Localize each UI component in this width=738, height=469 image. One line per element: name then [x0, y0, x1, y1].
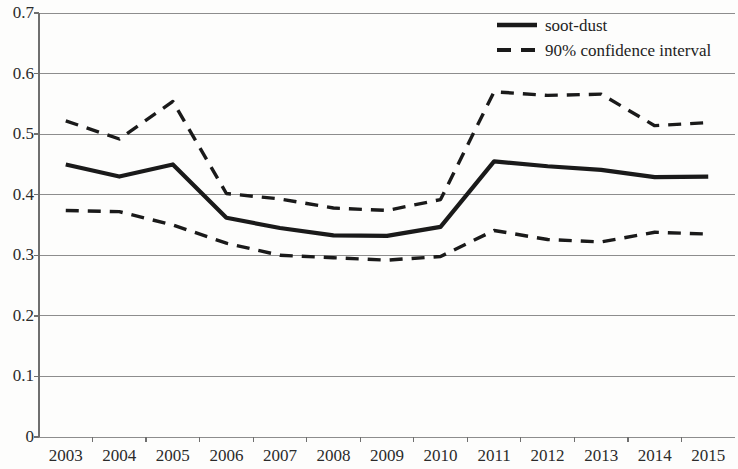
x-tick-label: 2003: [38, 447, 94, 464]
x-tick-marks-group: [93, 437, 682, 442]
axes-group: [34, 13, 39, 437]
series-line-1: [66, 92, 708, 211]
x-tick-label: 2004: [91, 447, 147, 464]
x-tick-label: 2011: [466, 447, 522, 464]
chart-container: 0.70.60.50.40.30.20.10 20032004200520062…: [0, 0, 738, 469]
x-tick-label: 2014: [627, 447, 683, 464]
x-tick-label: 2008: [305, 447, 361, 464]
x-tick-label: 2007: [252, 447, 308, 464]
x-tick-label: 2005: [145, 447, 201, 464]
x-tick-label: 2009: [359, 447, 415, 464]
y-tick-label: 0.3: [0, 246, 34, 263]
x-tick-label: 2010: [413, 447, 469, 464]
x-tick-label: 2006: [198, 447, 254, 464]
legend-label-soot-dust: soot-dust: [545, 17, 607, 34]
y-tick-label: 0.4: [0, 186, 34, 203]
legend-label-confidence-interval: 90% confidence interval: [545, 42, 711, 59]
y-tick-label: 0.7: [0, 4, 34, 21]
x-tick-label: 2015: [680, 447, 736, 464]
gridlines-group: [39, 13, 735, 437]
chart-plot-area: [0, 0, 738, 469]
series-line-0: [66, 161, 708, 236]
x-tick-label: 2012: [520, 447, 576, 464]
y-tick-label: 0.6: [0, 65, 34, 82]
y-tick-label: 0.1: [0, 367, 34, 384]
y-tick-label: 0.2: [0, 307, 34, 324]
y-tick-label: 0.5: [0, 125, 34, 142]
x-tick-label: 2013: [573, 447, 629, 464]
legend-line-swatches: [497, 25, 537, 50]
data-series-group: [66, 92, 708, 260]
y-tick-label: 0: [0, 428, 34, 445]
